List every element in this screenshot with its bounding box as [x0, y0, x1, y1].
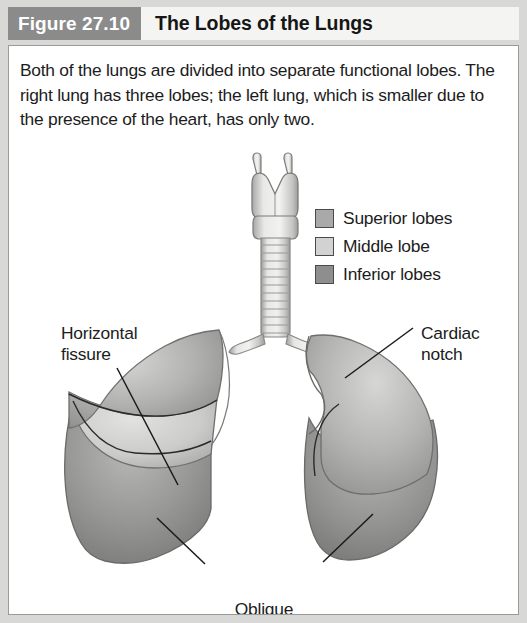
inferior-lobes-swatch [315, 265, 334, 284]
legend-item-inferior-lobes: Inferior lobes [315, 262, 452, 287]
legend-item-middle-lobe: Middle lobe [315, 234, 452, 259]
larynx-structure [252, 153, 298, 239]
left-lung [305, 335, 438, 560]
label-horizontal-fissure: Horizontal fissure [61, 323, 137, 365]
figure-title-bar: The Lobes of the Lungs [141, 7, 519, 40]
lobe-legend: Superior lobes Middle lobe Inferior lobe… [315, 206, 452, 287]
label-cardiac-notch: Cardiac notch [421, 323, 480, 365]
left-superior-lobe [306, 335, 433, 494]
larynx-left-horn-icon [253, 153, 261, 175]
figure-container: Figure 27.10 The Lobes of the Lungs Both… [0, 0, 527, 623]
larynx-right-horn-icon [284, 153, 292, 175]
label-oblique-fissure: Oblique fissure [210, 599, 318, 615]
legend-label-middle-lobe: Middle lobe [343, 236, 430, 257]
legend-label-inferior-lobes: Inferior lobes [343, 264, 441, 285]
right-primary-bronchus [229, 334, 265, 354]
legend-item-superior-lobes: Superior lobes [315, 206, 452, 231]
figure-panel: Both of the lungs are divided into separ… [8, 45, 519, 615]
superior-lobes-swatch [315, 209, 334, 228]
cricoid-cartilage [253, 216, 298, 239]
figure-header: Figure 27.10 The Lobes of the Lungs [8, 7, 519, 40]
figure-number-badge: Figure 27.10 [8, 7, 141, 40]
middle-lobe-swatch [315, 237, 334, 256]
figure-title: The Lobes of the Lungs [155, 12, 373, 35]
trachea-structure [261, 238, 290, 337]
legend-label-superior-lobes: Superior lobes [343, 208, 452, 229]
